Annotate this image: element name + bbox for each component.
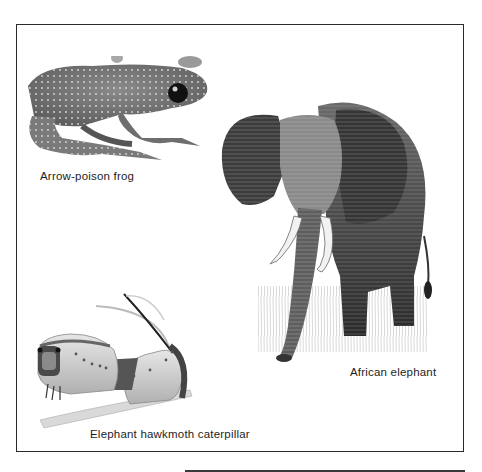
caterpillar-caption: Elephant hawkmoth caterpillar: [90, 428, 250, 440]
caterpillar-illustration: [30, 290, 200, 430]
elephant-illustration: [218, 96, 438, 364]
frog-caption: Arrow-poison frog: [40, 170, 134, 182]
frog-illustration: [22, 56, 212, 166]
elephant-caption: African elephant: [350, 366, 436, 378]
